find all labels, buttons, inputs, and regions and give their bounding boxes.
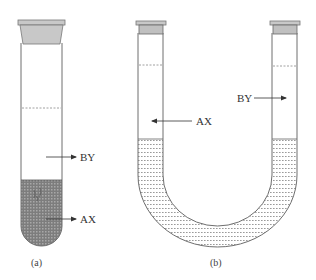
stopper-cap-right [270,21,300,25]
panel-b-u-tube [136,21,300,247]
u-tube-inner-wall [163,33,272,226]
label-ax-b: AX [196,115,212,127]
stopper-cap-left [136,21,166,25]
label-by-a: BY [80,151,95,163]
label-ax-a: AX [80,213,96,225]
caption-a: (a) [31,257,42,269]
u-tube-liquid [138,139,297,247]
caption-b: (b) [210,257,222,269]
stopper-plug [20,25,63,44]
diagram-canvas: BY AX (a) AX BY (b) [0,0,316,280]
stopper-plug-right [273,25,297,34]
stopper-cap [18,20,65,25]
lower-layer-ax [21,180,62,246]
stopper-plug-left [139,25,163,34]
label-by-b: BY [237,92,252,104]
panel-a-test-tube [18,20,76,246]
